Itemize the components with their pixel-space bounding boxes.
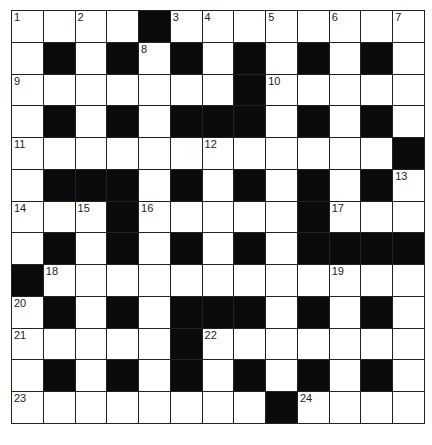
crossword-cell[interactable] bbox=[298, 329, 329, 360]
crossword-cell[interactable]: 23 bbox=[12, 392, 43, 423]
crossword-cell[interactable] bbox=[361, 138, 392, 169]
crossword-cell[interactable]: 19 bbox=[330, 265, 361, 296]
crossword-cell[interactable] bbox=[44, 11, 75, 42]
crossword-cell[interactable] bbox=[107, 75, 138, 106]
crossword-cell[interactable]: 2 bbox=[76, 11, 107, 42]
crossword-cell[interactable] bbox=[12, 360, 43, 391]
crossword-cell[interactable]: 13 bbox=[393, 170, 424, 201]
crossword-cell[interactable] bbox=[330, 106, 361, 137]
crossword-cell[interactable] bbox=[12, 43, 43, 74]
crossword-cell[interactable]: 3 bbox=[171, 11, 202, 42]
crossword-cell[interactable] bbox=[266, 265, 297, 296]
crossword-cell[interactable] bbox=[107, 329, 138, 360]
crossword-cell[interactable] bbox=[76, 138, 107, 169]
crossword-cell[interactable] bbox=[76, 265, 107, 296]
crossword-cell[interactable] bbox=[330, 75, 361, 106]
crossword-cell[interactable] bbox=[234, 329, 265, 360]
crossword-cell[interactable] bbox=[266, 138, 297, 169]
crossword-cell[interactable] bbox=[76, 297, 107, 328]
crossword-cell[interactable] bbox=[203, 265, 234, 296]
crossword-cell[interactable] bbox=[139, 233, 170, 264]
crossword-cell[interactable]: 24 bbox=[298, 392, 329, 423]
crossword-cell[interactable]: 14 bbox=[12, 202, 43, 233]
crossword-cell[interactable] bbox=[139, 138, 170, 169]
crossword-cell[interactable]: 11 bbox=[12, 138, 43, 169]
crossword-cell[interactable] bbox=[330, 170, 361, 201]
crossword-cell[interactable]: 1 bbox=[12, 11, 43, 42]
crossword-cell[interactable]: 17 bbox=[330, 202, 361, 233]
crossword-cell[interactable]: 9 bbox=[12, 75, 43, 106]
crossword-cell[interactable] bbox=[393, 106, 424, 137]
crossword-cell[interactable] bbox=[330, 43, 361, 74]
crossword-cell[interactable] bbox=[76, 360, 107, 391]
crossword-cell[interactable] bbox=[76, 233, 107, 264]
crossword-cell[interactable] bbox=[203, 75, 234, 106]
crossword-cell[interactable]: 8 bbox=[139, 43, 170, 74]
crossword-cell[interactable] bbox=[44, 202, 75, 233]
crossword-cell[interactable] bbox=[76, 392, 107, 423]
crossword-cell[interactable]: 6 bbox=[330, 11, 361, 42]
crossword-cell[interactable] bbox=[234, 202, 265, 233]
crossword-cell[interactable] bbox=[12, 170, 43, 201]
crossword-cell[interactable] bbox=[44, 138, 75, 169]
crossword-cell[interactable] bbox=[330, 329, 361, 360]
crossword-cell[interactable] bbox=[298, 11, 329, 42]
crossword-cell[interactable] bbox=[330, 138, 361, 169]
crossword-cell[interactable] bbox=[298, 265, 329, 296]
crossword-cell[interactable] bbox=[171, 392, 202, 423]
crossword-cell[interactable] bbox=[107, 265, 138, 296]
crossword-cell[interactable]: 10 bbox=[266, 75, 297, 106]
crossword-cell[interactable] bbox=[266, 170, 297, 201]
crossword-cell[interactable] bbox=[44, 75, 75, 106]
crossword-cell[interactable] bbox=[139, 392, 170, 423]
crossword-cell[interactable] bbox=[171, 202, 202, 233]
crossword-cell[interactable] bbox=[266, 297, 297, 328]
crossword-cell[interactable] bbox=[266, 329, 297, 360]
crossword-cell[interactable] bbox=[76, 43, 107, 74]
crossword-cell[interactable] bbox=[12, 233, 43, 264]
crossword-cell[interactable] bbox=[76, 106, 107, 137]
crossword-cell[interactable] bbox=[203, 233, 234, 264]
crossword-cell[interactable] bbox=[361, 11, 392, 42]
crossword-cell[interactable]: 18 bbox=[44, 265, 75, 296]
crossword-cell[interactable] bbox=[361, 392, 392, 423]
crossword-cell[interactable] bbox=[203, 392, 234, 423]
crossword-cell[interactable] bbox=[330, 360, 361, 391]
crossword-cell[interactable] bbox=[234, 392, 265, 423]
crossword-cell[interactable] bbox=[361, 202, 392, 233]
crossword-cell[interactable] bbox=[234, 11, 265, 42]
crossword-cell[interactable] bbox=[203, 43, 234, 74]
crossword-cell[interactable]: 20 bbox=[12, 297, 43, 328]
crossword-cell[interactable] bbox=[266, 360, 297, 391]
crossword-cell[interactable] bbox=[393, 75, 424, 106]
crossword-cell[interactable] bbox=[393, 265, 424, 296]
crossword-cell[interactable] bbox=[393, 329, 424, 360]
crossword-cell[interactable] bbox=[171, 138, 202, 169]
crossword-cell[interactable]: 12 bbox=[203, 138, 234, 169]
crossword-cell[interactable] bbox=[361, 329, 392, 360]
crossword-cell[interactable] bbox=[393, 392, 424, 423]
crossword-cell[interactable] bbox=[266, 233, 297, 264]
crossword-cell[interactable] bbox=[107, 11, 138, 42]
crossword-cell[interactable] bbox=[139, 75, 170, 106]
crossword-cell[interactable] bbox=[393, 297, 424, 328]
crossword-cell[interactable] bbox=[139, 360, 170, 391]
crossword-cell[interactable] bbox=[139, 265, 170, 296]
crossword-cell[interactable] bbox=[12, 106, 43, 137]
crossword-cell[interactable] bbox=[330, 392, 361, 423]
crossword-cell[interactable] bbox=[361, 265, 392, 296]
crossword-cell[interactable] bbox=[393, 43, 424, 74]
crossword-cell[interactable] bbox=[298, 138, 329, 169]
crossword-cell[interactable] bbox=[393, 202, 424, 233]
crossword-cell[interactable] bbox=[107, 392, 138, 423]
crossword-cell[interactable] bbox=[361, 75, 392, 106]
crossword-cell[interactable]: 21 bbox=[12, 329, 43, 360]
crossword-cell[interactable] bbox=[203, 170, 234, 201]
crossword-cell[interactable] bbox=[107, 138, 138, 169]
crossword-cell[interactable] bbox=[139, 170, 170, 201]
crossword-cell[interactable] bbox=[266, 106, 297, 137]
crossword-cell[interactable] bbox=[330, 297, 361, 328]
crossword-cell[interactable] bbox=[203, 202, 234, 233]
crossword-cell[interactable] bbox=[171, 75, 202, 106]
crossword-cell[interactable] bbox=[393, 360, 424, 391]
